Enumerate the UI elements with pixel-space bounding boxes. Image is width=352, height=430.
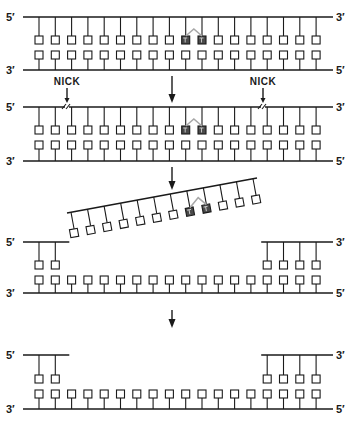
bottom-strand-base: [263, 141, 271, 149]
top-strand-base: [296, 261, 304, 269]
excised-fragment-backbone: [67, 178, 257, 213]
thymine-dimer-base: [182, 36, 190, 44]
bottom-strand-base: [296, 390, 304, 398]
top-strand-base: [84, 36, 92, 44]
bottom-strand-base: [51, 141, 59, 149]
strand-end-label-3prime: 3′: [336, 349, 345, 361]
thymine-dimer-base: [198, 126, 206, 134]
bottom-strand-base: [214, 51, 222, 59]
bottom-strand-base: [165, 51, 173, 59]
fragment-base: [235, 198, 244, 207]
fragment-base: [103, 222, 112, 231]
fragment-base: [103, 222, 112, 231]
bottom-strand-base: [214, 276, 222, 284]
top-strand-base: [296, 126, 304, 134]
top-strand-base: [263, 261, 271, 269]
bottom-strand-base: [231, 390, 239, 398]
fragment-base: [218, 201, 227, 210]
strand-end-label-5prime: 5′: [336, 287, 345, 299]
top-strand-base: [263, 126, 271, 134]
fragment-base: [136, 216, 145, 225]
thymine-dimer-base: [198, 36, 206, 44]
bottom-strand-base: [182, 51, 190, 59]
top-strand-base: [312, 36, 320, 44]
bottom-strand-base: [133, 390, 141, 398]
bottom-strand-base: [296, 51, 304, 59]
strand-end-label-5prime: 5′: [6, 236, 15, 248]
fragment-link: [253, 179, 256, 196]
fragment-base: [136, 216, 145, 225]
fragment-base: [152, 213, 161, 222]
panel-damaged-duplex: 5′3′3′5′: [6, 11, 345, 76]
bottom-strand-base: [100, 51, 108, 59]
fragment-base: [169, 210, 178, 219]
bottom-strand-base: [68, 51, 76, 59]
fragment-link: [104, 206, 107, 223]
fragment-link: [137, 200, 140, 217]
bottom-strand-base: [84, 141, 92, 149]
top-strand-base: [263, 36, 271, 44]
nick-arrow-head-icon: [261, 98, 266, 103]
top-strand-base: [149, 36, 157, 44]
bottom-strand-base: [231, 141, 239, 149]
strand-end-label-3prime: 3′: [6, 155, 15, 167]
fragment-link: [187, 191, 190, 208]
top-strand-base: [280, 36, 288, 44]
fragment-base: [119, 219, 128, 228]
excised-fragment: [67, 178, 261, 238]
top-strand-base: [280, 126, 288, 134]
strand-end-label-5prime: 5′: [336, 155, 345, 167]
top-strand-base: [35, 261, 43, 269]
top-strand-base: [84, 126, 92, 134]
top-strand-base: [312, 126, 320, 134]
fragment-link: [121, 203, 124, 220]
bottom-strand-base: [117, 276, 125, 284]
bottom-strand-base: [165, 141, 173, 149]
top-strand-base: [214, 36, 222, 44]
bottom-strand-base: [84, 276, 92, 284]
strand-end-label-3prime: 3′: [6, 287, 15, 299]
bottom-strand-base: [149, 51, 157, 59]
bottom-strand-base: [35, 390, 43, 398]
bottom-strand-base: [296, 276, 304, 284]
strand-end-label-3prime: 3′: [336, 101, 345, 113]
bottom-strand-base: [51, 51, 59, 59]
bottom-strand-base: [263, 51, 271, 59]
nick-arrow-head-icon: [65, 98, 70, 103]
fragment-base: [251, 195, 260, 204]
top-strand-base: [231, 36, 239, 44]
top-strand-base: [214, 126, 222, 134]
top-strand-base: [51, 261, 59, 269]
bottom-strand-base: [198, 51, 206, 59]
top-strand-base: [149, 126, 157, 134]
bottom-strand-base: [247, 390, 255, 398]
bottom-strand-base: [312, 141, 320, 149]
excision-repair-diagram: 5′3′3′5′5′3′3′5′NICKNICK5′3′3′5′5′3′3′5′: [0, 0, 352, 430]
nick-label: NICK: [250, 76, 277, 87]
bottom-strand-base: [280, 141, 288, 149]
bottom-strand-base: [133, 51, 141, 59]
top-strand-base: [263, 375, 271, 383]
bottom-strand-base: [100, 141, 108, 149]
bottom-strand-base: [312, 390, 320, 398]
bottom-strand-base: [165, 390, 173, 398]
top-strand-base: [247, 36, 255, 44]
top-strand-base: [312, 261, 320, 269]
bottom-strand-base: [247, 276, 255, 284]
bottom-strand-base: [280, 390, 288, 398]
bottom-strand-base: [68, 141, 76, 149]
bottom-strand-base: [133, 276, 141, 284]
fragment-base: [235, 198, 244, 207]
arrow-head-icon: [169, 181, 176, 190]
bottom-strand-base: [68, 276, 76, 284]
top-strand-base: [133, 126, 141, 134]
bottom-strand-base: [100, 276, 108, 284]
bottom-strand-base: [117, 141, 125, 149]
fragment-link: [220, 185, 223, 202]
fragment-base: [86, 225, 95, 234]
fragment-link: [154, 197, 157, 214]
fragment-base: [119, 219, 128, 228]
bottom-strand-base: [133, 141, 141, 149]
arrow-head-icon: [169, 319, 176, 328]
panel-gapped-duplex: 5′3′3′5′: [6, 236, 345, 299]
